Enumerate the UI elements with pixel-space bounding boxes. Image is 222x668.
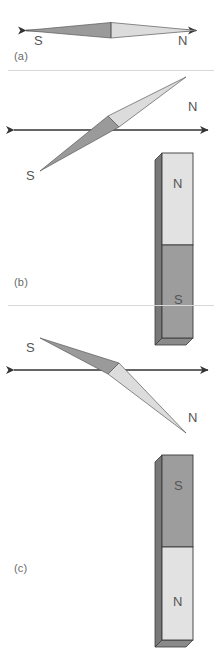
needle-north-label-b: N [188,99,197,114]
panel-c-graphic [0,306,222,668]
magnet-north-label-b: N [173,176,182,191]
magnet-north-label-c: N [173,594,182,609]
needle-north-label-c: N [188,410,197,425]
figure-root: S N (a) [0,0,222,668]
panel-label-c: (c) [14,562,27,574]
panel-b: S N N S (b) [0,71,222,306]
magnet-side-face-c [155,455,162,647]
needle-south-label-a: S [34,33,43,48]
panel-c: S N S N (c) [0,306,222,668]
magnet-south-section-c [162,455,193,547]
panel-a: S N (a) [0,0,222,71]
needle-south-half-c [40,338,119,374]
magnet-south-label-c: S [174,478,183,493]
panel-label-b: (b) [14,276,28,288]
needle-north-half-b [108,77,186,127]
needle-south-half-b [40,116,119,171]
panel-label-a: (a) [14,50,28,62]
needle-south-label-c: S [26,340,35,355]
magnet-north-section-b [162,153,193,245]
needle-south-label-b: S [26,168,35,183]
magnet-bottom-face-c [155,640,193,647]
needle-north-label-a: N [178,33,187,48]
needle-north-half-c [108,363,186,433]
